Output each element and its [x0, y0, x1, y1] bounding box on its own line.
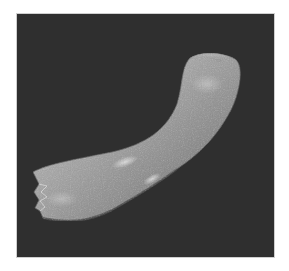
- background: [17, 14, 275, 258]
- micrograph-frame: Scanning electron micrograph of a curved…: [16, 13, 275, 258]
- specimen-image: [17, 14, 275, 258]
